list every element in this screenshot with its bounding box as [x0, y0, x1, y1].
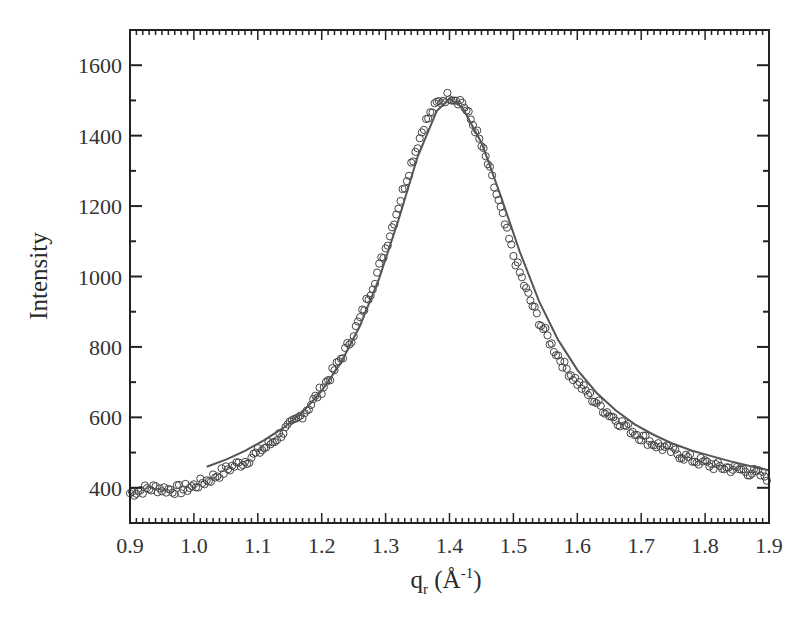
data-point	[525, 289, 532, 296]
x-tick-label: 1.6	[564, 533, 592, 558]
x-axis-tick-labels: 0.91.01.11.21.31.41.51.61.71.81.9	[116, 533, 783, 558]
data-point	[674, 451, 681, 458]
data-point	[533, 310, 540, 317]
x-axis-title: qr (Å-1)	[411, 565, 482, 597]
data-point	[542, 324, 549, 331]
y-tick-label: 600	[89, 405, 122, 430]
data-point	[548, 340, 555, 347]
x-tick-label: 1.0	[180, 533, 208, 558]
x-tick-label: 1.5	[500, 533, 528, 558]
x-tick-label: 1.8	[691, 533, 719, 558]
data-point	[604, 409, 611, 416]
y-tick-label: 400	[89, 476, 122, 501]
fit-curve	[207, 99, 769, 471]
y-tick-label: 1200	[78, 194, 122, 219]
y-axis-tick-labels: 4006008001000120014001600	[78, 53, 122, 501]
data-point	[563, 365, 570, 372]
y-tick-label: 1600	[78, 53, 122, 78]
data-point	[544, 332, 551, 339]
data-point	[761, 473, 768, 480]
data-point	[584, 391, 591, 398]
x-tick-label: 1.9	[755, 533, 783, 558]
y-tick-label: 1000	[78, 265, 122, 290]
data-point	[510, 252, 517, 259]
data-point	[227, 467, 234, 474]
x-tick-label: 1.2	[308, 533, 336, 558]
chart: 0.91.01.11.21.31.41.51.61.71.81.9 400600…	[0, 0, 811, 628]
x-tick-label: 0.9	[116, 533, 144, 558]
y-tick-label: 1400	[78, 124, 122, 149]
x-tick-label: 1.7	[627, 533, 655, 558]
data-point	[587, 389, 594, 396]
y-tick-label: 800	[89, 335, 122, 360]
data-points	[126, 89, 770, 499]
data-point	[216, 474, 223, 481]
x-tick-label: 1.4	[436, 533, 464, 558]
x-tick-label: 1.1	[244, 533, 272, 558]
y-axis-title: Intensity	[25, 232, 52, 320]
x-tick-label: 1.3	[372, 533, 400, 558]
